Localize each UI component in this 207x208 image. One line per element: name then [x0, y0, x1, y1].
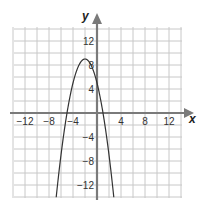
x-tick-label: 12	[163, 116, 175, 127]
x-axis-label: x	[188, 112, 197, 126]
y-tick-label: 12	[83, 36, 95, 47]
x-tick-label: −12	[17, 116, 34, 127]
y-tick-label: 4	[88, 84, 94, 95]
y-tick-label: −4	[83, 132, 95, 143]
x-tick-label: −4	[67, 116, 79, 127]
y-axis-label: y	[81, 9, 90, 23]
x-tick-label: 4	[118, 116, 124, 127]
y-axis-arrow-icon	[92, 13, 102, 24]
x-tick-label: −8	[43, 116, 55, 127]
y-tick-label: −12	[77, 180, 94, 191]
x-tick-label: 8	[142, 116, 148, 127]
y-tick-label: −8	[83, 156, 95, 167]
parabola-chart: −12−8−448121284−4−8−12 x y	[0, 0, 207, 208]
